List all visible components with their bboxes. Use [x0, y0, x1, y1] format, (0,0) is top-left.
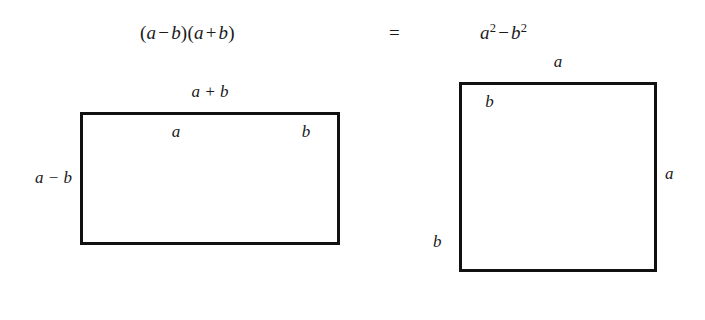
right-figure-inner-left-label: b — [433, 232, 442, 252]
variable-a-2: a — [194, 22, 204, 43]
plus-operator: + — [204, 22, 219, 43]
equation-left-side: (a−b)(a+b) — [140, 22, 235, 44]
variable-b-squared-base: b — [511, 22, 521, 43]
left-rectangle-figure: a + b a − b a b — [80, 112, 340, 245]
left-figure-top-label: a + b — [80, 82, 340, 102]
diagram-canvas: (a−b)(a+b) = a2−b2 a + b a − b a b a a b… — [0, 0, 705, 320]
variable-a-squared-base: a — [480, 22, 490, 43]
minus-operator-1: − — [156, 22, 171, 43]
exponent-two-b: 2 — [521, 21, 527, 35]
right-figure-side-label: a — [665, 164, 674, 184]
variable-b-2: b — [219, 22, 229, 43]
minus-operator-2: − — [496, 22, 511, 43]
left-figure-bottom-label-b: b — [272, 122, 340, 142]
variable-a-1: a — [147, 22, 157, 43]
right-figure-bottom-label: b — [459, 92, 520, 112]
equals-sign: = — [389, 22, 400, 44]
left-figure-bottom-label-a: a — [80, 122, 272, 142]
left-figure-side-label: a − b — [8, 168, 72, 188]
equation-right-side: a2−b2 — [480, 22, 527, 44]
variable-b-1: b — [171, 22, 181, 43]
right-square-figure: a a b b — [459, 82, 657, 272]
close-paren-2: ) — [228, 22, 235, 43]
right-figure-top-label: a — [459, 52, 657, 72]
